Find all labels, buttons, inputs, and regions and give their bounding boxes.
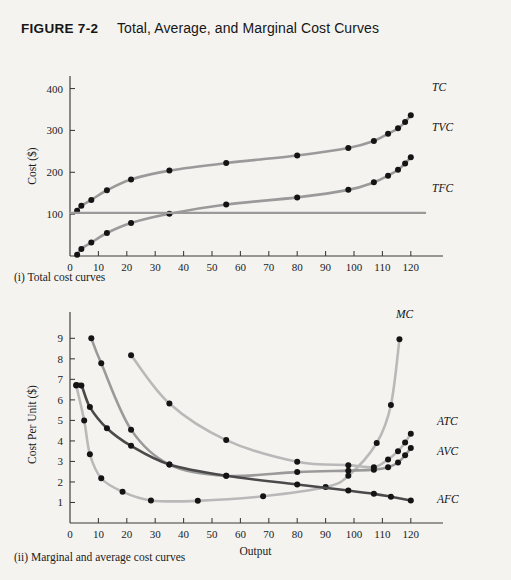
curve-label-tvc: TVC xyxy=(432,121,453,133)
data-point-mc xyxy=(345,473,351,479)
data-point-tvc xyxy=(395,167,401,173)
x-tick-label: 60 xyxy=(235,261,247,273)
x-tick-label: 30 xyxy=(150,528,162,540)
data-point-avc xyxy=(402,452,408,458)
total-cost-chart-svg: 0102030405060708090100110120100200300400… xyxy=(0,58,511,280)
data-point-tc xyxy=(408,112,414,118)
x-tick-label: 50 xyxy=(207,528,219,540)
data-point-atc xyxy=(345,462,351,468)
data-point-tc xyxy=(104,187,110,193)
data-point-tvc xyxy=(128,220,134,226)
data-point-afc xyxy=(73,382,79,388)
x-tick-label: 100 xyxy=(346,528,363,540)
x-tick-label: 20 xyxy=(121,261,133,273)
data-point-tvc xyxy=(74,252,80,258)
data-point-mc xyxy=(148,497,154,503)
x-tick-label: 30 xyxy=(150,261,162,273)
data-point-afc xyxy=(388,494,394,500)
data-point-tc xyxy=(294,153,300,159)
data-point-tvc xyxy=(104,230,110,236)
data-point-mc xyxy=(81,417,87,423)
curve-label-mc: MC xyxy=(395,308,414,320)
chart-panel-average-marginal-cost: 0102030405060708090100110120123456789Out… xyxy=(0,296,511,558)
x-axis-title: Output xyxy=(240,278,273,280)
data-point-tvc xyxy=(78,246,84,252)
data-point-afc xyxy=(128,443,134,449)
data-point-avc xyxy=(98,360,104,366)
data-point-mc xyxy=(195,498,201,504)
data-point-mc xyxy=(388,402,394,408)
y-tick-label: 200 xyxy=(47,166,64,178)
curve-atc xyxy=(131,355,411,467)
x-tick-label: 100 xyxy=(346,261,363,273)
data-point-tvc xyxy=(408,154,414,160)
data-point-atc xyxy=(166,401,172,407)
data-point-tc xyxy=(78,203,84,209)
x-tick-label: 40 xyxy=(178,528,190,540)
curve-label-atc: ATC xyxy=(436,415,458,427)
data-point-afc xyxy=(166,462,172,468)
average-marginal-cost-chart-svg: 0102030405060708090100110120123456789Out… xyxy=(0,296,511,558)
data-point-avc xyxy=(385,464,391,470)
data-point-tc xyxy=(166,168,172,174)
curve-label-tfc: TFC xyxy=(432,182,453,194)
y-tick-label: 400 xyxy=(47,83,64,95)
data-point-afc xyxy=(294,481,300,487)
x-tick-label: 120 xyxy=(403,528,420,540)
chart-panel-total-cost: 0102030405060708090100110120100200300400… xyxy=(0,58,511,280)
y-axis-title: Cost ($) xyxy=(26,147,39,185)
data-point-mc xyxy=(87,451,93,457)
figure-title: Total, Average, and Marginal Cost Curves xyxy=(117,20,379,36)
y-tick-label: 6 xyxy=(58,394,64,406)
y-tick-label: 100 xyxy=(47,208,64,220)
curve-afc xyxy=(76,384,411,501)
data-point-afc xyxy=(345,488,351,494)
data-point-tc xyxy=(128,176,134,182)
x-tick-label: 10 xyxy=(93,528,105,540)
curve-tc xyxy=(77,115,411,210)
data-point-avc xyxy=(408,445,414,451)
data-point-afc xyxy=(408,497,414,503)
figure-page: FIGURE 7-2 Total, Average, and Marginal … xyxy=(0,0,511,580)
y-tick-label: 4 xyxy=(58,435,64,447)
data-point-atc xyxy=(385,456,391,462)
x-tick-label: 120 xyxy=(403,261,420,273)
data-point-afc xyxy=(223,473,229,479)
data-point-tvc xyxy=(88,240,94,246)
y-axis-title: Cost Per Unit ($) xyxy=(26,385,39,464)
x-tick-label: 80 xyxy=(292,261,304,273)
x-tick-label: 80 xyxy=(292,528,304,540)
figure-number: FIGURE 7-2 xyxy=(21,21,98,36)
y-tick-label: 300 xyxy=(47,124,64,136)
curve-avc xyxy=(91,338,411,476)
curve-tvc xyxy=(77,157,411,255)
caption-panel-ii: (ii) Marginal and average cost curves xyxy=(14,551,185,563)
data-point-atc xyxy=(128,352,134,358)
data-point-avc xyxy=(345,468,351,474)
data-point-afc xyxy=(371,491,377,497)
y-tick-label: 5 xyxy=(58,414,64,426)
caption-panel-i: (i) Total cost curves xyxy=(14,271,105,283)
x-tick-label: 70 xyxy=(263,261,275,273)
data-point-atc xyxy=(395,448,401,454)
x-tick-label: 0 xyxy=(67,528,73,540)
data-point-atc xyxy=(223,437,229,443)
data-point-tc xyxy=(345,145,351,151)
y-tick-label: 3 xyxy=(58,455,64,467)
x-tick-label: 60 xyxy=(235,528,247,540)
x-tick-label: 50 xyxy=(207,261,219,273)
figure-header: FIGURE 7-2 Total, Average, and Marginal … xyxy=(0,0,511,56)
data-point-atc xyxy=(402,440,408,446)
data-point-atc xyxy=(408,431,414,437)
x-tick-label: 110 xyxy=(374,528,391,540)
data-point-mc xyxy=(120,489,126,495)
x-tick-label: 90 xyxy=(320,261,332,273)
data-point-avc xyxy=(88,335,94,341)
data-point-tc xyxy=(395,125,401,131)
data-point-avc xyxy=(128,427,134,433)
data-point-mc xyxy=(260,493,266,499)
x-tick-label: 20 xyxy=(121,528,133,540)
data-point-atc xyxy=(294,459,300,465)
data-point-tvc xyxy=(371,179,377,185)
y-tick-label: 7 xyxy=(58,373,64,385)
